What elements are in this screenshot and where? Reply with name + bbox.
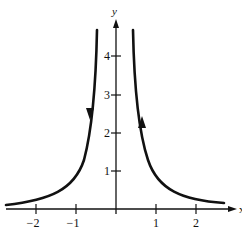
x-axis-arrow-icon — [228, 206, 237, 212]
left-branch-curve — [6, 30, 97, 205]
x-tick-label: −1 — [67, 216, 80, 230]
y-tick-label: 3 — [104, 88, 110, 102]
y-axis-arrow-icon — [113, 19, 119, 28]
y-axis-label: y — [111, 5, 117, 17]
x-tick-label: 1 — [153, 216, 159, 230]
right-branch-curve — [133, 30, 224, 203]
y-tick-label: 2 — [104, 126, 110, 140]
x-axis-label: x — [239, 203, 242, 215]
x-tick-labels: −2 −1 1 2 — [27, 216, 199, 230]
x-tick-label: 2 — [193, 216, 199, 230]
hyperbola-phase-plot: x y −2 −1 1 2 1 2 3 4 — [0, 0, 242, 237]
y-tick-label: 4 — [104, 49, 110, 63]
x-tick-label: −2 — [27, 216, 40, 230]
y-tick-label: 1 — [104, 164, 110, 178]
y-tick-labels: 1 2 3 4 — [104, 49, 110, 178]
